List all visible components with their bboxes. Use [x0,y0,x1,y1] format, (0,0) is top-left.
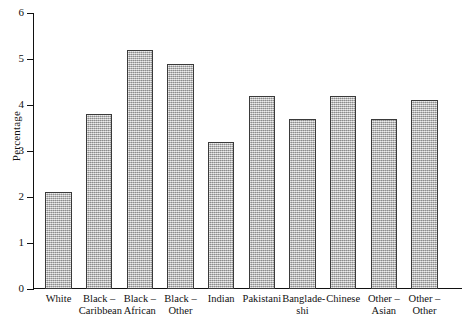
bar [249,96,276,289]
bar [167,64,194,289]
y-axis-tick [27,289,34,290]
bar [411,100,438,289]
y-axis-tick-label: 1 [6,237,24,248]
bar [330,96,357,289]
bar [127,50,154,289]
y-axis-tick-label: 6 [6,7,24,18]
bar [86,114,113,289]
bar-chart: Percentage 0123456 WhiteBlack – Caribbea… [0,0,472,326]
x-axis-label: Black – Other [160,293,201,316]
x-axis-label: Black – Caribbean [79,293,120,316]
y-axis-tick-label: 0 [6,283,24,294]
bar [208,142,235,289]
y-axis-tick-label: 5 [6,53,24,64]
x-axis-label: Pakistani [242,293,283,305]
bar [371,119,398,289]
bar [45,192,72,289]
plot-area [33,13,462,289]
y-axis-tick-label: 2 [6,191,24,202]
x-axis-label: Other – Other [404,293,445,316]
x-axis-label: Banglade- shi [282,293,323,316]
x-axis-label: Other – Asian [363,293,404,316]
x-axis-label: Chinese [323,293,364,305]
x-axis-label: Black – African [120,293,161,316]
x-axis-label: White [38,293,79,305]
x-axis-label: Indian [201,293,242,305]
y-axis-tick-label: 4 [6,99,24,110]
y-axis-title: Percentage [10,76,22,196]
y-axis-tick-label: 3 [6,145,24,156]
bar [289,119,316,289]
